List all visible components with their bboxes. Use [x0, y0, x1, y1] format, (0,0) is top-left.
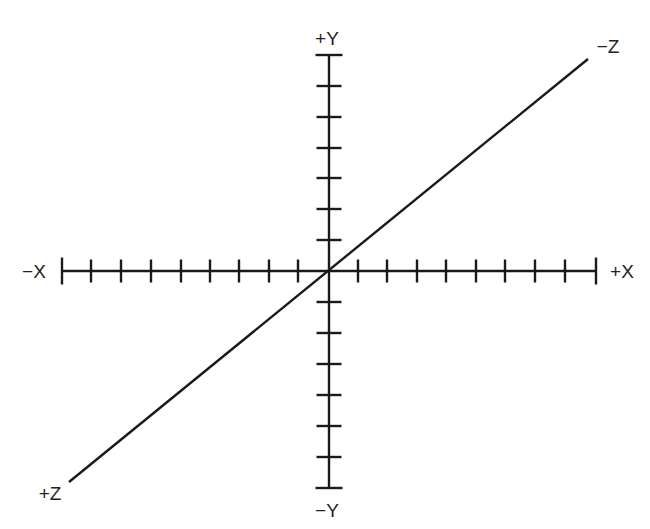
label-negative-z: −Z — [597, 36, 620, 57]
background — [0, 0, 650, 529]
label-positive-z: +Z — [39, 483, 62, 504]
coordinate-axes-diagram: +Y −Y −X +X −Z +Z — [0, 0, 650, 529]
label-positive-y: +Y — [315, 28, 339, 49]
label-negative-x: −X — [22, 261, 46, 282]
label-positive-x: +X — [610, 261, 634, 282]
label-negative-y: −Y — [315, 500, 339, 521]
